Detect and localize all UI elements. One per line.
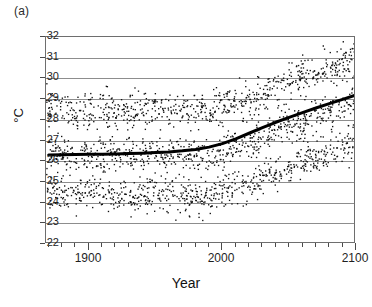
- y-tick-label-27: 27: [29, 134, 59, 145]
- x-tick-2030: [261, 243, 262, 247]
- x-tick-1880: [61, 243, 62, 247]
- x-tick-1990: [208, 243, 209, 247]
- x-tick-1970: [181, 243, 182, 247]
- panel-label: (a): [14, 4, 29, 18]
- x-tick-label-1900: 1900: [58, 252, 118, 264]
- y-tick-label-31: 31: [29, 51, 59, 62]
- x-tick-1950: [155, 243, 156, 247]
- plot-area: [45, 36, 355, 243]
- y-tick-label-29: 29: [29, 92, 59, 103]
- x-tick-2010: [235, 243, 236, 247]
- x-tick-1960: [168, 243, 169, 247]
- x-tick-1940: [141, 243, 142, 247]
- y-tick-label-24: 24: [29, 196, 59, 207]
- x-axis-title: Year: [0, 275, 372, 291]
- x-tick-2000: [221, 243, 222, 250]
- x-tick-label-2100: 2100: [325, 252, 372, 264]
- scatter-points: [46, 41, 355, 221]
- x-tick-2020: [248, 243, 249, 247]
- x-tick-2090: [342, 243, 343, 247]
- x-tick-1980: [195, 243, 196, 247]
- x-tick-1930: [128, 243, 129, 247]
- x-tick-2080: [328, 243, 329, 247]
- x-tick-1870: [48, 243, 49, 247]
- figure-panel-a: (a) 2223242526272829303132 190020002100 …: [0, 0, 372, 307]
- y-tick-label-26: 26: [29, 154, 59, 165]
- x-tick-1890: [74, 243, 75, 247]
- x-tick-1900: [88, 243, 89, 250]
- x-tick-2060: [302, 243, 303, 247]
- x-tick-1920: [114, 243, 115, 247]
- y-tick-label-25: 25: [29, 175, 59, 186]
- x-tick-label-2000: 2000: [191, 252, 251, 264]
- x-tick-2070: [315, 243, 316, 247]
- x-tick-2040: [275, 243, 276, 247]
- y-tick-label-22: 22: [29, 237, 59, 248]
- y-tick-label-30: 30: [29, 71, 59, 82]
- x-tick-2050: [288, 243, 289, 247]
- y-tick-label-28: 28: [29, 113, 59, 124]
- data-layer: [46, 37, 355, 243]
- x-tick-2100: [355, 243, 356, 250]
- y-tick-label-32: 32: [29, 30, 59, 41]
- y-axis-title: °C: [11, 96, 26, 136]
- y-tick-label-23: 23: [29, 216, 59, 227]
- x-tick-1910: [101, 243, 102, 247]
